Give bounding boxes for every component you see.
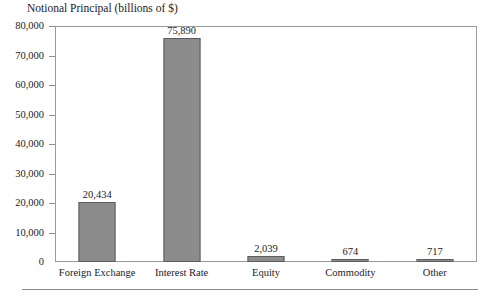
- footer-divider: [22, 289, 478, 290]
- y-axis-tick-label: 70,000: [15, 48, 44, 63]
- bar-value-label: 2,039: [254, 242, 278, 255]
- x-axis-category-label: Other: [423, 265, 447, 280]
- bar: [332, 259, 369, 262]
- bar-value-label: 20,434: [83, 188, 112, 201]
- y-axis-tick-label: 20,000: [15, 195, 44, 210]
- bar-value-label: 674: [343, 245, 359, 258]
- bars-layer: 20,43475,8902,039674717: [55, 26, 477, 262]
- y-axis-tick-label: 10,000: [15, 225, 44, 240]
- bar: [163, 38, 200, 262]
- y-axis-tick-label: 60,000: [15, 77, 44, 92]
- bar-value-label: 75,890: [167, 24, 196, 37]
- y-axis: 010,00020,00030,00040,00050,00060,00070,…: [0, 0, 55, 298]
- y-axis-tick-label: 30,000: [15, 166, 44, 181]
- x-axis-category-label: Equity: [252, 265, 280, 280]
- x-axis-category-label: Commodity: [325, 265, 375, 280]
- x-axis: Foreign ExchangeInterest RateEquityCommo…: [55, 265, 477, 285]
- y-axis-tick-label: 50,000: [15, 107, 44, 122]
- y-axis-tick-label: 80,000: [15, 18, 44, 33]
- bar-group: 2,039: [224, 26, 308, 262]
- bar-group: 717: [393, 26, 477, 262]
- y-axis-tick-label: 40,000: [15, 136, 44, 151]
- bar-value-label: 717: [427, 245, 443, 258]
- bar: [247, 256, 284, 262]
- bar: [416, 259, 453, 262]
- bar: [79, 202, 116, 262]
- bar-group: 20,434: [55, 26, 139, 262]
- y-axis-tick-label: 0: [39, 254, 44, 269]
- x-axis-category-label: Interest Rate: [155, 265, 208, 280]
- x-axis-category-label: Foreign Exchange: [59, 265, 136, 280]
- bar-group: 75,890: [139, 26, 223, 262]
- bar-chart-figure: Notional Principal (billions of $) 010,0…: [0, 0, 498, 298]
- bar-group: 674: [308, 26, 392, 262]
